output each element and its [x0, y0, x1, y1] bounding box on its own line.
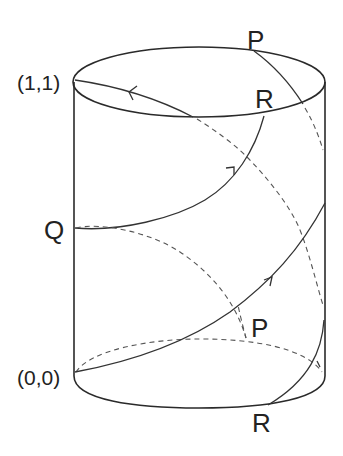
hidden-mid-to-bottom	[300, 230, 323, 305]
bottom-ellipse-back	[76, 339, 322, 372]
hidden-q-to-p	[76, 226, 246, 338]
arrow-origin	[264, 277, 272, 286]
arrow-q-to-r	[226, 167, 234, 175]
label-bottom-p: P	[251, 313, 268, 343]
label-top-p: P	[247, 25, 264, 55]
label-top-r: R	[255, 84, 274, 114]
label-coord-top: (1,1)	[17, 71, 60, 94]
cylinder-diagram: P (1,1) R Q P (0,0) R	[0, 0, 343, 456]
label-bottom-r: R	[252, 408, 271, 438]
hidden-p-bottom	[238, 305, 246, 338]
label-coord-bottom: (0,0)	[17, 366, 60, 389]
path-right-to-r-bottom	[268, 320, 324, 405]
label-q: Q	[44, 215, 64, 245]
path-q-to-r	[75, 116, 264, 229]
hidden-p-down	[305, 108, 323, 150]
cylinder-svg: P (1,1) R Q P (0,0) R	[0, 0, 343, 456]
hidden-top-to-mid	[197, 119, 300, 230]
